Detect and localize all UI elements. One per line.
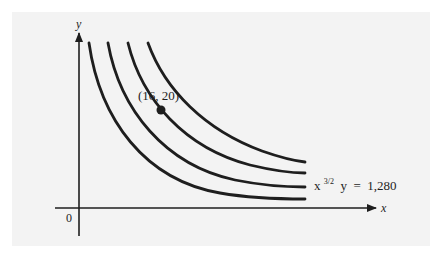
- point-label: (16, 20): [138, 88, 179, 103]
- y-axis-label: y: [75, 17, 82, 31]
- level-curve-3: [128, 43, 305, 173]
- curve-equation-label: x 3/2 y = 1,280: [314, 172, 397, 193]
- x-axis-label: x: [380, 201, 387, 215]
- level-curve-2: [108, 43, 305, 187]
- level-curves-diagram: y x 0 (16, 20) x 3/2 y = 1,280: [0, 0, 441, 256]
- level-curve-1: [89, 43, 305, 199]
- point-marker: [157, 106, 166, 115]
- curve-label-rest: y = 1,280: [337, 178, 396, 193]
- origin-label: 0: [66, 211, 72, 225]
- curve-label-exponent: 3/2: [324, 177, 334, 186]
- curve-label-base: x: [314, 178, 321, 193]
